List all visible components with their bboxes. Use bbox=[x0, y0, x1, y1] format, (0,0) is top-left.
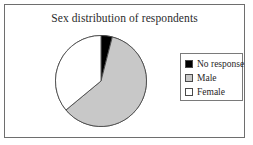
legend-item-no-response[interactable]: No response bbox=[185, 57, 242, 70]
chart-legend: No response Male Female bbox=[180, 53, 243, 101]
white-swatch bbox=[185, 88, 193, 96]
legend-item-male[interactable]: Male bbox=[185, 71, 242, 84]
page-title: Sex distribution of respondents bbox=[4, 12, 245, 24]
gray-swatch bbox=[185, 74, 193, 82]
legend-item-label: Male bbox=[197, 73, 217, 83]
chart-screenshot: Sex distribution of respondents No respo… bbox=[0, 0, 253, 145]
pie-chart-svg bbox=[54, 34, 148, 128]
legend-item-label: Female bbox=[197, 87, 225, 97]
legend-item-label: No response bbox=[197, 59, 244, 69]
pie-chart bbox=[54, 34, 148, 128]
pie-slices bbox=[56, 36, 147, 127]
legend-item-female[interactable]: Female bbox=[185, 85, 242, 98]
black-swatch bbox=[185, 60, 193, 68]
